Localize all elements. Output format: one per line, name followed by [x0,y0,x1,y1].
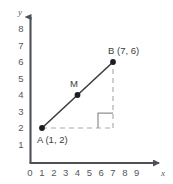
coordinate-plane-figure: y x 8 7 6 5 4 3 2 1 0 1 2 3 4 5 6 7 8 9 [0,0,173,184]
x-tick-3: 3 [63,167,68,178]
point-label-a: A (1, 2) [37,134,68,145]
point-a [39,125,45,131]
x-tick-6: 6 [99,167,104,178]
y-tick-4: 4 [18,89,23,100]
point-m [75,92,81,98]
x-axis-label: x [160,168,165,178]
y-tick-7: 7 [18,40,23,51]
plot-canvas: y x 8 7 6 5 4 3 2 1 0 1 2 3 4 5 6 7 8 9 [0,0,173,184]
y-tick-1: 1 [18,139,23,150]
y-tick-labels: 8 7 6 5 4 3 2 1 [18,23,23,150]
x-tick-8: 8 [122,167,127,178]
x-tick-7: 7 [110,167,115,178]
right-angle-marker [98,113,113,128]
y-tick-5: 5 [18,73,23,84]
x-tick-4: 4 [75,167,80,178]
y-tick-3: 3 [18,106,23,117]
x-tick-0: 0 [27,167,32,178]
x-tick-1: 1 [39,167,44,178]
point-label-m: M [70,78,78,89]
y-tick-6: 6 [18,56,23,67]
x-tick-9: 9 [134,167,139,178]
x-tick-labels: 0 1 2 3 4 5 6 7 8 9 [27,167,139,178]
x-tick-5: 5 [87,167,92,178]
x-tick-2: 2 [51,167,56,178]
y-tick-8: 8 [18,23,23,34]
y-axis-label: y [17,7,22,17]
y-tick-2: 2 [18,122,23,133]
point-b [110,59,116,65]
point-label-b: B (7, 6) [108,45,139,56]
